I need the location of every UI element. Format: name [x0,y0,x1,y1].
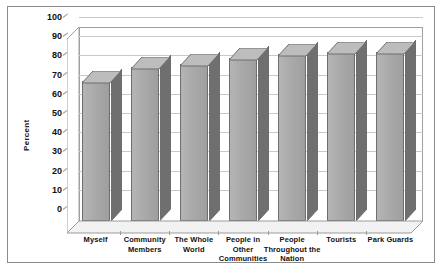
y-axis-tick-label: 100 [36,12,62,22]
bar-side-face [258,46,268,221]
bar-top-face [278,44,317,55]
bar-side-face [160,55,170,221]
bar-side-face [356,40,366,221]
x-axis-tick-mark [218,231,219,235]
y-axis-tick-label: 10 [36,185,62,195]
y-axis-tick-label: 0 [36,204,62,214]
bar-front-face [278,54,306,221]
bar [229,58,257,221]
bar-front-face [229,58,257,221]
y-axis-tick-labels: 1009080706050403020100 [36,7,62,276]
bar-top-face [327,42,366,53]
bar [327,52,355,221]
x-axis-tick-mark [317,231,318,235]
bar-top-face [180,54,219,65]
y-axis-tick-label: 80 [36,50,62,60]
bar-front-face [376,52,404,221]
chart-frame: Percent 1009080706050403020100 MyselfCom… [7,6,435,263]
bar-top-face [82,71,121,82]
bar-top-face [376,42,415,53]
x-axis-tick-mark [169,231,170,235]
bar-side-face [307,42,317,221]
y-axis-tick-label: 70 [36,70,62,80]
bar-front-face [180,64,208,221]
bar [278,54,306,221]
bar-top-face [229,48,268,59]
y-axis-tick-label: 50 [36,108,62,118]
y-axis-tick-label: 40 [36,127,62,137]
y-axis-tick-label: 90 [36,31,62,41]
y-axis-tick-label: 20 [36,166,62,176]
x-axis-category-labels: MyselfCommunityMembersThe WholeWorldPeop… [67,235,427,269]
x-axis-tick-mark [120,231,121,235]
x-axis-tick-mark [366,231,367,235]
bar [82,81,110,221]
bar-top-face [131,57,170,68]
x-axis-category-label-line: Nation [262,254,322,264]
bar-front-face [131,67,159,221]
y-axis-tick-label: 60 [36,89,62,99]
x-axis-tick-mark [268,231,269,235]
bar [131,67,159,221]
gridline [79,36,423,37]
bar-side-face [209,52,219,221]
x-axis-category-label: Park Guards [360,235,420,245]
y-axis-tick-label: 30 [36,146,62,156]
y-axis-title: Percent [20,95,34,175]
bar-side-face [111,69,121,221]
bar-front-face [82,81,110,221]
x-axis-category-label-line: Park Guards [360,235,420,245]
x-axis-category-label-line: Throughout the [262,245,322,255]
bar [376,52,404,221]
bar-side-face [405,40,415,221]
bar-front-face [327,52,355,221]
bar [180,64,208,221]
plot-area [67,27,423,233]
gridline [79,17,423,18]
y-axis-tick-mark [63,13,68,17]
